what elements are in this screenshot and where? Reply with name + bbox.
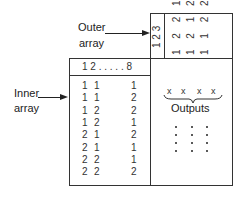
inner-row-7-c2: 2 xyxy=(94,155,100,165)
inner-row-7-c1: 2 xyxy=(82,155,88,165)
inner-row-6-c8: 1 xyxy=(131,143,137,153)
dot xyxy=(191,150,193,152)
inner-row-2-c2: 1 xyxy=(94,93,100,103)
inner-row-6-c1: 2 xyxy=(82,143,88,153)
dot xyxy=(191,126,193,128)
inner-row-4-c2: 2 xyxy=(94,118,100,128)
inner-row-8-c1: 2 xyxy=(82,167,88,177)
inner-array-arrow-head-icon xyxy=(60,94,68,100)
dot xyxy=(191,134,193,136)
inner-row-1-c2: 1 xyxy=(94,81,100,91)
inner-row-5-c8: 2 xyxy=(131,130,137,140)
outer-array-arrow-head-icon xyxy=(142,30,150,36)
dot xyxy=(206,134,208,136)
dot xyxy=(175,134,177,136)
dot xyxy=(206,150,208,152)
outer-array-label-line2: array xyxy=(79,37,104,49)
dot xyxy=(206,126,208,128)
outer-array-arrow xyxy=(105,33,143,34)
outputs-label: Outputs xyxy=(171,102,210,114)
inner-row-7-c8: 1 xyxy=(131,155,137,165)
inner-array-label-line1: Inner xyxy=(14,87,39,99)
inner-row-1-c8: 1 xyxy=(131,81,137,91)
dot xyxy=(175,142,177,144)
inner-row-5-c2: 1 xyxy=(94,130,100,140)
outer-array-rotated-row: 1 2 2 1 xyxy=(172,0,182,55)
inner-row-8-c2: 2 xyxy=(94,167,100,177)
dot xyxy=(175,126,177,128)
inner-array-header: 1 2 . . . . . 8 xyxy=(82,62,132,72)
inner-row-3-c8: 2 xyxy=(131,106,137,116)
outer-array-factor-header: 1 2 3 xyxy=(152,26,162,48)
outer-array-rotated-row: 1 1 2 2 xyxy=(200,0,210,55)
outputs-box xyxy=(150,58,233,186)
inner-row-5-c1: 2 xyxy=(82,130,88,140)
inner-row-8-c8: 2 xyxy=(131,167,137,177)
outer-array-label-line1: Outer xyxy=(78,21,106,33)
inner-row-2-c1: 1 xyxy=(82,93,88,103)
dot xyxy=(191,142,193,144)
outer-array-rotated-row: 1 2 1 2 xyxy=(186,0,196,55)
inner-row-6-c2: 1 xyxy=(94,143,100,153)
inner-array-label-line2: array xyxy=(14,102,39,114)
inner-row-3-c2: 2 xyxy=(94,106,100,116)
inner-array-header-divider xyxy=(69,75,151,76)
inner-row-4-c8: 1 xyxy=(131,118,137,128)
inner-row-4-c1: 1 xyxy=(82,118,88,128)
inner-row-1-c1: 1 xyxy=(82,81,88,91)
inner-array-arrow xyxy=(38,97,61,98)
dot xyxy=(175,150,177,152)
inner-row-2-c8: 2 xyxy=(131,93,137,103)
inner-row-3-c1: 1 xyxy=(82,106,88,116)
dot xyxy=(206,142,208,144)
outer-array-divider xyxy=(164,13,165,58)
